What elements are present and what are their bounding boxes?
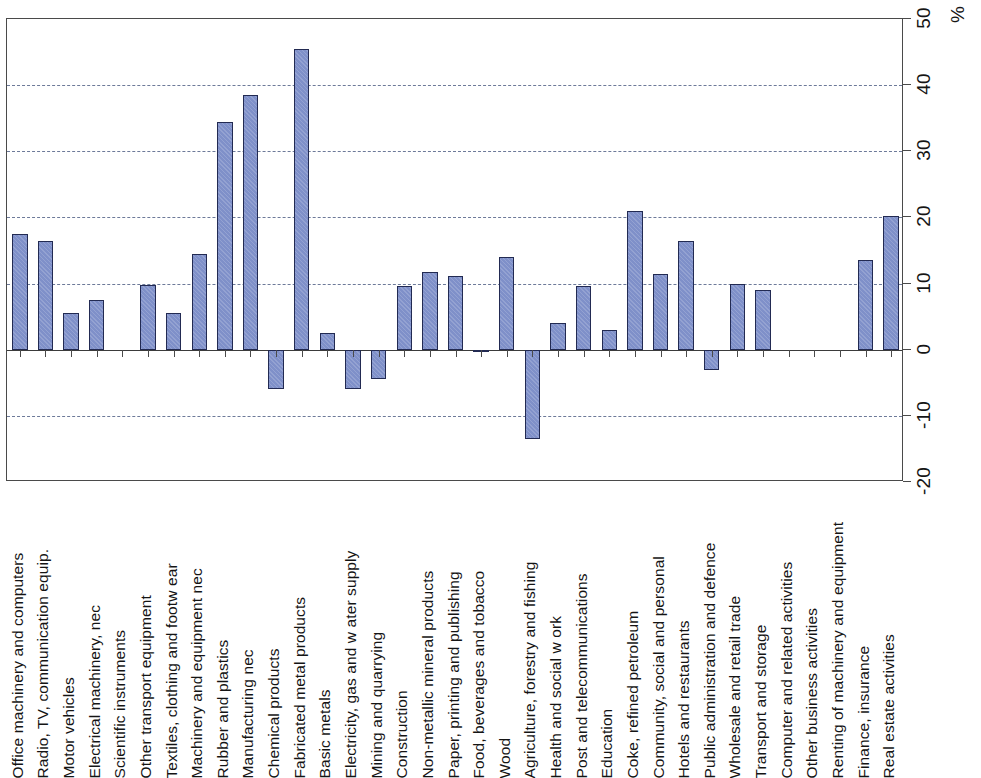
category-tick: [97, 350, 98, 357]
bar: [653, 274, 668, 350]
category-tick: [430, 350, 431, 357]
category-label: Paper, printing and publishing: [445, 571, 461, 778]
bar: [243, 95, 258, 350]
value-tick-label: 30: [913, 120, 935, 180]
category-label: Education: [599, 708, 615, 778]
category-label: Office machinery and computers: [9, 552, 25, 778]
category-tick: [789, 350, 790, 357]
category-label: Manufacturing nec: [240, 649, 256, 778]
category-tick: [737, 350, 738, 357]
bar: [12, 234, 27, 350]
category-tick: [532, 350, 533, 357]
gridline--10: [7, 416, 902, 417]
category-label: Health and social w ork: [548, 615, 564, 778]
category-tick: [840, 350, 841, 357]
bar: [140, 285, 155, 350]
value-tick-label: 10: [913, 253, 935, 313]
category-label: Community, social and personal: [650, 556, 666, 778]
category-tick: [148, 350, 149, 357]
category-tick: [122, 350, 123, 357]
value-tick-50: [903, 18, 911, 19]
category-label: Electricity, gas and w ater supply: [342, 550, 358, 778]
category-label: Other transport equipment: [137, 595, 153, 778]
zero-axis-line: [7, 350, 902, 351]
bar: [192, 254, 207, 350]
bar: [678, 241, 693, 350]
category-tick: [20, 350, 21, 357]
category-tick: [507, 350, 508, 357]
value-tick-0: [903, 349, 911, 350]
category-label: Mining and quarrying: [368, 631, 384, 778]
category-label: Real estate activities: [881, 634, 897, 778]
category-axis-labels: Office machinery and computersRadio, TV,…: [6, 487, 903, 778]
category-tick: [481, 350, 482, 357]
value-tick-label: -10: [913, 385, 935, 445]
value-tick-label: 0: [913, 319, 935, 379]
value-tick-10: [903, 283, 911, 284]
category-label: Food, beverages and tobacco: [471, 570, 487, 778]
category-tick: [866, 350, 867, 357]
category-label: Fabricated metal products: [291, 596, 307, 778]
category-label: Agriculture, forestry and fishing: [522, 561, 538, 778]
category-tick: [404, 350, 405, 357]
category-label: Wholesale and retail trade: [727, 595, 743, 778]
category-label: Chemical products: [266, 648, 282, 778]
bar: [730, 284, 745, 350]
bar: [755, 290, 770, 350]
category-tick: [891, 350, 892, 357]
category-label: Post and telecommunications: [573, 573, 589, 778]
category-label: Transport and storage: [753, 624, 769, 778]
category-label: Machinery and equipment nec: [189, 568, 205, 778]
bar: [550, 323, 565, 349]
bar: [320, 333, 335, 350]
value-tick--10: [903, 415, 911, 416]
bar: [499, 257, 514, 350]
value-tick-30: [903, 150, 911, 151]
value-tick-40: [903, 84, 911, 85]
value-tick-label: 40: [913, 54, 935, 114]
category-label: Textiles, clothing and footw ear: [163, 563, 179, 778]
category-label: Radio, TV, communication equip.: [35, 548, 51, 778]
bar: [602, 330, 617, 350]
category-tick: [635, 350, 636, 357]
category-tick: [558, 350, 559, 357]
category-tick: [225, 350, 226, 357]
value-tick-label: 50: [913, 0, 935, 48]
category-tick: [250, 350, 251, 357]
category-tick: [353, 350, 354, 357]
bar: [422, 272, 437, 349]
bar: [63, 313, 78, 349]
category-label: Non-metallic mineral products: [419, 570, 435, 778]
category-tick: [174, 350, 175, 357]
category-tick: [199, 350, 200, 357]
category-tick: [302, 350, 303, 357]
category-label: Rubber and plastics: [214, 639, 230, 778]
gridline-30: [7, 151, 902, 152]
category-tick: [686, 350, 687, 357]
category-tick: [584, 350, 585, 357]
category-label: Coke, refined petroleum: [624, 610, 640, 778]
category-label: Basic metals: [317, 689, 333, 778]
bar: [883, 216, 898, 350]
value-tick-label: 20: [913, 186, 935, 246]
gridline-20: [7, 217, 902, 218]
bar: [166, 313, 181, 349]
bar: [448, 276, 463, 349]
category-tick: [763, 350, 764, 357]
bar: [294, 49, 309, 350]
bar: [525, 350, 540, 439]
category-tick: [71, 350, 72, 357]
value-axis: -20-1001020304050: [903, 18, 943, 481]
bar: [576, 286, 591, 350]
category-tick: [45, 350, 46, 357]
category-tick: [609, 350, 610, 357]
bar: [397, 286, 412, 350]
category-label: Electrical machinery, nec: [86, 604, 102, 778]
category-label: Public administration and defence: [701, 542, 717, 778]
bar: [858, 260, 873, 349]
bar-chart: -20-1001020304050 % Office machinery and…: [0, 0, 981, 778]
category-label: Hotels and restaurants: [676, 620, 692, 778]
bar: [217, 122, 232, 350]
category-tick: [712, 350, 713, 357]
value-tick--20: [903, 481, 911, 482]
